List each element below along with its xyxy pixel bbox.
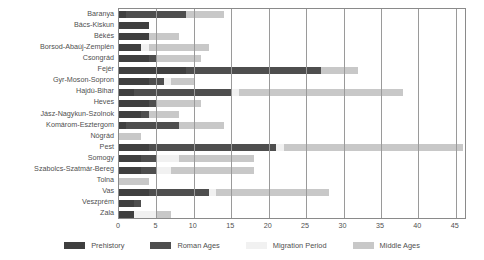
stacked-bar [119, 44, 209, 51]
bar-segment-middle-ages [119, 133, 141, 140]
gridline-30 [344, 9, 345, 218]
legend-item[interactable]: Roman Ages [150, 241, 219, 250]
bar-row [119, 120, 465, 131]
gridline-25 [306, 9, 307, 218]
y-axis-label: Nógrád [90, 132, 114, 140]
bar-segment-roman-ages [126, 122, 178, 129]
bar-row [119, 42, 465, 53]
bar-row [119, 198, 465, 209]
bar-segment-middle-ages [156, 211, 171, 218]
bar-segment-middle-ages [149, 111, 179, 118]
bar-segment-middle-ages [119, 178, 149, 185]
stacked-bar [119, 178, 149, 185]
bar-segment-migration-period [209, 189, 216, 196]
gridline-45 [456, 9, 457, 218]
bar-segment-roman-ages [149, 55, 156, 62]
bar-segment-prehistory [119, 89, 134, 96]
bar-segment-migration-period [134, 211, 156, 218]
x-axis-tick-label: 40 [413, 221, 421, 230]
x-axis-tick-label: 15 [226, 221, 234, 230]
bar-segment-roman-ages [149, 189, 209, 196]
x-axis-tick-label: 35 [376, 221, 384, 230]
bar-segment-migration-period [276, 144, 283, 151]
bar-segment-roman-ages [186, 67, 321, 74]
stacked-bar [119, 200, 141, 207]
bar-row [119, 109, 465, 120]
stacked-bar [119, 100, 201, 107]
bar-segment-migration-period [231, 89, 238, 96]
bar-segment-migration-period [164, 78, 171, 85]
x-axis-tick-label: 0 [116, 221, 120, 230]
bar-row [119, 153, 465, 164]
bar-segment-prehistory [119, 167, 141, 174]
bar-segment-prehistory [119, 44, 141, 51]
stacked-bar-chart: BaranyaBács-KiskunBékésBorsod-Abaúj-Zemp… [0, 0, 484, 260]
legend-swatch [353, 242, 374, 249]
plot-area [118, 8, 466, 219]
gridline-20 [269, 9, 270, 218]
bar-segment-roman-ages [134, 89, 231, 96]
chart-legend: PrehistoryRoman AgesMigration PeriodMidd… [0, 237, 484, 253]
y-axis-label: Pest [100, 143, 114, 151]
stacked-bar [119, 155, 254, 162]
y-axis-label: Bács-Kiskun [74, 21, 114, 29]
y-axis-label: Csongrád [83, 54, 114, 62]
bar-row [119, 142, 465, 153]
bar-row [119, 9, 465, 20]
stacked-bar [119, 22, 149, 29]
bar-segment-middle-ages [149, 44, 209, 51]
bar-segment-prehistory [119, 144, 149, 151]
y-axis-label: Heves [94, 98, 114, 106]
legend-swatch [64, 242, 85, 249]
stacked-bar [119, 122, 224, 129]
y-axis-labels: BaranyaBács-KiskunBékésBorsod-Abaúj-Zemp… [0, 8, 114, 219]
stacked-bar [119, 144, 463, 151]
bar-segment-middle-ages [149, 33, 179, 40]
legend-label: Migration Period [273, 241, 327, 250]
bar-segment-roman-ages [141, 155, 156, 162]
bar-segment-middle-ages [186, 11, 223, 18]
x-axis-tick-label: 25 [301, 221, 309, 230]
legend-label: Roman Ages [177, 241, 219, 250]
gridline-40 [418, 9, 419, 218]
bar-rows [119, 9, 465, 218]
bar-segment-middle-ages [321, 67, 358, 74]
bar-segment-roman-ages [149, 100, 156, 107]
bar-segment-roman-ages [141, 111, 148, 118]
bar-segment-middle-ages [179, 155, 254, 162]
legend-item[interactable]: Middle Ages [353, 241, 420, 250]
gridline-5 [156, 9, 157, 218]
stacked-bar [119, 211, 171, 218]
bar-row [119, 187, 465, 198]
bar-segment-middle-ages [179, 122, 224, 129]
gridline-10 [194, 9, 195, 218]
y-axis-label: Fejér [98, 65, 114, 73]
bar-segment-middle-ages [239, 89, 404, 96]
stacked-bar [119, 89, 403, 96]
y-axis-label: Komárom-Esztergom [46, 121, 114, 129]
bar-segment-prehistory [119, 55, 149, 62]
bar-segment-prehistory [119, 111, 141, 118]
y-axis-label: Veszprém [82, 198, 114, 206]
bar-segment-migration-period [141, 44, 148, 51]
x-axis-tick-label: 10 [189, 221, 197, 230]
bar-segment-prehistory [119, 189, 149, 196]
bar-segment-roman-ages [149, 144, 276, 151]
y-axis-label: Somogy [88, 154, 114, 162]
bar-row [119, 31, 465, 42]
stacked-bar [119, 33, 179, 40]
y-axis-label: Hajdú-Bihar [76, 87, 114, 95]
bar-row [119, 53, 465, 64]
legend-item[interactable]: Migration Period [246, 241, 327, 250]
bar-segment-middle-ages [216, 189, 328, 196]
bar-row [119, 20, 465, 31]
stacked-bar [119, 67, 358, 74]
legend-item[interactable]: Prehistory [64, 241, 124, 250]
y-axis-label: Borsod-Abaúj-Zemplén [40, 43, 114, 51]
x-axis-tick-label: 5 [153, 221, 157, 230]
bar-segment-prehistory [119, 211, 134, 218]
x-axis-tick-label: 45 [451, 221, 459, 230]
legend-label: Middle Ages [380, 241, 420, 250]
bar-segment-roman-ages [134, 200, 141, 207]
y-axis-label: Baranya [87, 10, 114, 18]
